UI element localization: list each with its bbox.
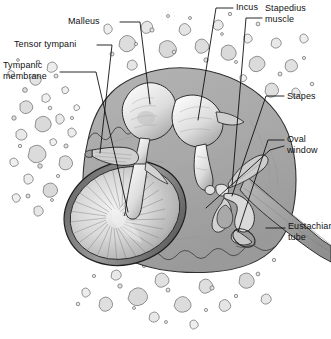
- label-eustachian-tube-line1: Eustachian: [288, 221, 331, 232]
- label-malleus: Malleus: [68, 16, 100, 27]
- label-stapes: Stapes: [287, 91, 316, 102]
- label-tympanic-membrane: Tympanic membrane: [3, 60, 59, 81]
- label-stapes-text: Stapes: [287, 91, 316, 101]
- label-oval-window: Oval window: [287, 134, 331, 155]
- label-oval-window-line1: Oval: [287, 134, 331, 145]
- label-malleus-text: Malleus: [68, 16, 100, 26]
- label-tympanic-membrane-line2: membrane: [3, 71, 59, 82]
- label-tympanic-membrane-line1: Tympanic: [3, 60, 59, 71]
- label-incus-text: Incus: [236, 2, 258, 12]
- middle-ear-illustration: [0, 0, 331, 339]
- label-tensor-tympani-text: Tensor tympani: [14, 39, 76, 49]
- label-eustachian-tube: Eustachian tube: [288, 221, 331, 242]
- label-stapedius-muscle-line1: Stapedius: [265, 3, 325, 14]
- label-tensor-tympani: Tensor tympani: [14, 39, 76, 50]
- label-eustachian-tube-line2: tube: [288, 232, 331, 243]
- label-stapedius-muscle-line2: muscle: [265, 14, 325, 25]
- label-stapedius-muscle: Stapedius muscle: [265, 3, 325, 24]
- label-oval-window-line2: window: [287, 145, 331, 156]
- anatomy-figure: Tympanic membrane Tensor tympani Malleus…: [0, 0, 331, 339]
- label-incus: Incus: [236, 2, 258, 13]
